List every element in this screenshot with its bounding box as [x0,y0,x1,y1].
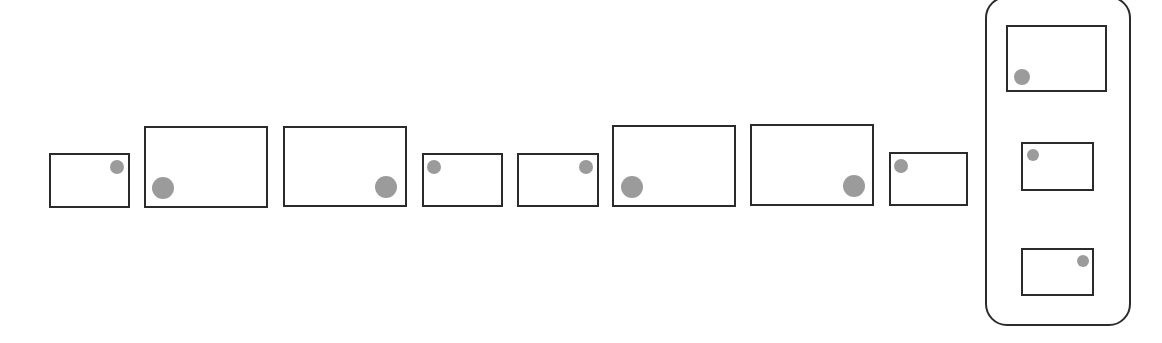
dot-top-right [1077,255,1089,267]
dot-bottom-left [621,176,643,198]
sequence-frame-5 [517,153,599,207]
sequence-frame-7 [750,124,874,206]
dot-top-right [579,160,593,174]
answer-option-2[interactable] [1021,142,1094,191]
dot-bottom-right [375,176,397,198]
sequence-frame-2 [144,126,268,208]
sequence-frame-3 [283,126,407,207]
sequence-frame-8 [889,152,968,206]
sequence-frame-6 [612,125,736,207]
dot-bottom-left [152,177,174,199]
dot-bottom-right [843,175,865,197]
sequence-frame-1 [49,153,130,208]
sequence-frame-4 [422,153,503,207]
answer-option-3[interactable] [1021,248,1094,296]
dot-bottom-left [1014,69,1030,85]
dot-top-left [1027,149,1039,161]
answer-option-1[interactable] [1006,25,1107,92]
dot-top-left [427,160,441,174]
dot-top-right [110,160,124,174]
puzzle-diagram [0,0,1162,343]
dot-top-left [894,159,908,173]
